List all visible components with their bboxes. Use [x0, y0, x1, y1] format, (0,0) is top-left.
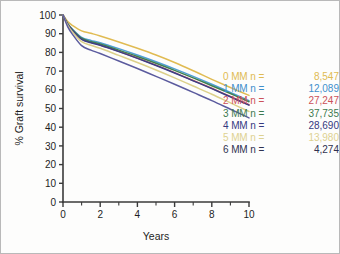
- y-axis-tick-label: 30: [45, 141, 57, 152]
- legend-item-value: 4,274: [299, 144, 339, 156]
- y-axis-tick-label: 60: [45, 84, 57, 95]
- legend-item-label: 6 MM n =: [223, 144, 264, 156]
- legend-item-label: 4 MM n =: [223, 120, 264, 132]
- legend-item-label: 2 MM n =: [223, 95, 264, 107]
- survival-curve-0-mm: [63, 15, 249, 95]
- y-axis-tick-label: 0: [50, 197, 56, 208]
- x-axis-tick-label: 8: [209, 209, 215, 220]
- legend-item: 3 MM n =37,735: [223, 108, 339, 120]
- y-axis-tick-label: 90: [45, 28, 57, 39]
- y-axis-tick-label: 70: [45, 66, 57, 77]
- legend-item-value: 13,980: [299, 132, 339, 144]
- legend-item-label: 3 MM n =: [223, 108, 264, 120]
- legend-item-value: 8,547: [299, 71, 339, 83]
- x-axis-tick-label: 0: [60, 209, 66, 220]
- chart-legend: 0 MM n =8,5471 MM n =12,0892 MM n =27,24…: [223, 71, 339, 156]
- y-axis-tick-label: 80: [45, 47, 57, 58]
- y-axis-tick-label: 10: [45, 178, 57, 189]
- survival-curve-6-mm: [63, 15, 249, 118]
- legend-item: 4 MM n =28,690: [223, 120, 339, 132]
- x-axis-tick-label: 6: [172, 209, 178, 220]
- legend-item-value: 27,247: [299, 95, 339, 107]
- survival-curve-1-mm: [63, 15, 249, 101]
- legend-item-value: 37,735: [299, 108, 339, 120]
- legend-item: 1 MM n =12,089: [223, 83, 339, 95]
- legend-item: 6 MM n =4,274: [223, 144, 339, 156]
- legend-item-label: 1 MM n =: [223, 83, 264, 95]
- x-axis-tick-label: 2: [97, 209, 103, 220]
- y-axis-title: % Graft survival: [13, 71, 25, 145]
- legend-item-label: 0 MM n =: [223, 71, 264, 83]
- legend-item: 0 MM n =8,547: [223, 71, 339, 83]
- y-axis-tick-label: 50: [45, 103, 57, 114]
- legend-item: 5 MM n =13,980: [223, 132, 339, 144]
- y-axis-tick-label: 40: [45, 122, 57, 133]
- legend-item-value: 12,089: [299, 83, 339, 95]
- x-axis-tick-labels: 0246810: [60, 209, 255, 220]
- x-axis-tick-label: 4: [135, 209, 141, 220]
- y-axis-tick-label: 100: [39, 10, 56, 21]
- x-axis-tick-label: 10: [243, 209, 255, 220]
- legend-item-value: 28,690: [299, 120, 339, 132]
- data-curves: [63, 15, 249, 118]
- y-axis-tick-labels: 0102030405060708090100: [39, 10, 56, 208]
- y-axis-tick-label: 20: [45, 159, 57, 170]
- x-axis-title: Years: [143, 230, 169, 242]
- legend-item: 2 MM n =27,247: [223, 95, 339, 107]
- chart-figure: 0102030405060708090100 0246810 Years % G…: [0, 0, 340, 254]
- legend-item-label: 5 MM n =: [223, 132, 264, 144]
- survival-curve-2-mm: [63, 15, 249, 105]
